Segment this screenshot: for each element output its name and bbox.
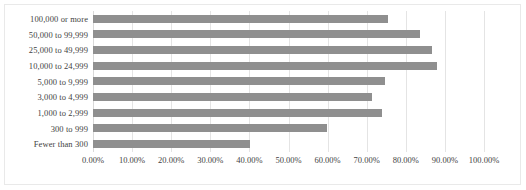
category-label: 300 to 999 bbox=[4, 124, 88, 134]
bar-row bbox=[93, 89, 484, 105]
bar bbox=[93, 30, 420, 38]
bar-row bbox=[93, 11, 484, 27]
bar-row bbox=[93, 105, 484, 121]
bar-row bbox=[93, 42, 484, 58]
bar-chart: 100,000 or more50,000 to 99,99925,000 to… bbox=[0, 0, 526, 190]
category-label: Fewer than 300 bbox=[4, 139, 88, 149]
y-axis-labels: 100,000 or more50,000 to 99,99925,000 to… bbox=[0, 11, 88, 152]
bar bbox=[93, 46, 432, 54]
x-axis-labels: 0.00%10.00%20.00%30.00%40.00%50.00%60.00… bbox=[93, 155, 484, 169]
gridline bbox=[484, 11, 485, 152]
x-tick-label: 100.00% bbox=[454, 155, 514, 165]
bar bbox=[93, 124, 327, 132]
bar bbox=[93, 77, 385, 85]
category-label: 5,000 to 9,999 bbox=[4, 77, 88, 87]
category-label: 1,000 to 2,999 bbox=[4, 108, 88, 118]
bar bbox=[93, 140, 250, 148]
bar-row bbox=[93, 58, 484, 74]
category-label: 3,000 to 4,999 bbox=[4, 92, 88, 102]
bar bbox=[93, 93, 372, 101]
category-label: 10,000 to 24,999 bbox=[4, 61, 88, 71]
bars-layer bbox=[93, 11, 484, 152]
category-label: 100,000 or more bbox=[4, 14, 88, 24]
bar bbox=[93, 109, 382, 117]
bar bbox=[93, 62, 437, 70]
bar bbox=[93, 15, 388, 23]
bar-row bbox=[93, 121, 484, 137]
bar-row bbox=[93, 74, 484, 90]
bar-row bbox=[93, 136, 484, 152]
category-label: 25,000 to 49,999 bbox=[4, 45, 88, 55]
category-label: 50,000 to 99,999 bbox=[4, 30, 88, 40]
bar-row bbox=[93, 27, 484, 43]
